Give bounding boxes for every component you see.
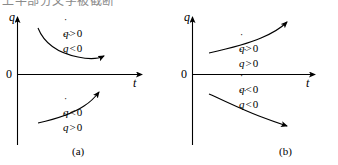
condition-value: 0 xyxy=(253,83,259,95)
q-double-dot-symbol: ˙˙q xyxy=(239,97,245,112)
panel-a-x-axis-label: t xyxy=(133,77,136,89)
panel-b-upper-conditions: ˙q>0 ˙˙q>0 xyxy=(239,41,258,71)
q-double-dot-symbol: ˙˙q xyxy=(63,120,69,135)
panel-b-upper-condition-2: ˙˙q>0 xyxy=(239,56,258,71)
panel-b-x-axis-label: t xyxy=(306,77,309,89)
condition-value: 0 xyxy=(253,42,259,54)
panel-b-lower-conditions: ˙q<0 ˙˙q<0 xyxy=(239,82,258,112)
panel-a-lower-condition-2: ˙˙q>0 xyxy=(63,120,82,135)
panel-a-lower-conditions: ˙q<0 ˙˙q>0 xyxy=(63,105,82,135)
condition-value: 0 xyxy=(77,106,83,118)
panel-a-y-axis-label: q xyxy=(9,11,15,23)
relational-operator: > xyxy=(245,57,253,69)
condition-value: 0 xyxy=(253,57,259,69)
panel-b-y-axis-label: q xyxy=(184,11,190,23)
panel-b-lower-condition-2: ˙˙q<0 xyxy=(239,97,258,112)
relational-operator: > xyxy=(69,121,77,133)
condition-value: 0 xyxy=(77,42,83,54)
figure-panel-a: q t 0 ˙q>0 ˙˙q<0 ˙q<0 ˙˙q>0 (a) xyxy=(0,0,169,165)
condition-value: 0 xyxy=(253,98,259,110)
panel-b-origin-label: 0 xyxy=(181,68,187,80)
panel-a-upper-condition-2: ˙˙q<0 xyxy=(63,41,82,56)
panel-a-caption: (a) xyxy=(72,146,84,157)
panel-a-graphic xyxy=(0,0,169,165)
relational-operator: < xyxy=(69,42,77,54)
panel-b-caption: (b) xyxy=(279,146,292,157)
panel-a-upper-conditions: ˙q>0 ˙˙q<0 xyxy=(63,26,82,56)
panel-a-origin-label: 0 xyxy=(6,68,12,80)
q-double-dot-symbol: ˙˙q xyxy=(63,41,69,56)
condition-value: 0 xyxy=(77,27,83,39)
figure-panel-b: q t 0 ˙q>0 ˙˙q>0 ˙q<0 ˙˙q<0 (b) xyxy=(169,0,338,165)
q-double-dot-symbol: ˙˙q xyxy=(239,56,245,71)
condition-value: 0 xyxy=(77,121,83,133)
relational-operator: < xyxy=(245,98,253,110)
